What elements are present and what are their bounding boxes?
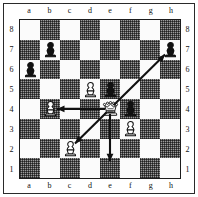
square-h6[interactable] xyxy=(160,60,180,80)
square-a6[interactable] xyxy=(20,60,40,80)
file-label-g: g xyxy=(141,6,161,16)
square-a1[interactable] xyxy=(20,158,40,178)
file-label-c: c xyxy=(60,181,80,191)
square-c4[interactable] xyxy=(60,99,80,119)
square-h7[interactable] xyxy=(160,40,180,60)
square-d2[interactable] xyxy=(80,139,100,159)
square-f5[interactable] xyxy=(120,79,140,99)
square-c6[interactable] xyxy=(60,60,80,80)
file-labels-top: a b c d e f g h xyxy=(19,6,181,16)
square-d5[interactable] xyxy=(80,79,100,99)
square-b6[interactable] xyxy=(40,60,60,80)
square-c5[interactable] xyxy=(60,79,80,99)
square-g7[interactable] xyxy=(140,40,160,60)
square-g2[interactable] xyxy=(140,139,160,159)
rank-label-1: 1 xyxy=(182,159,193,179)
square-c8[interactable] xyxy=(60,20,80,40)
black-pawn-b7[interactable] xyxy=(40,40,60,60)
file-label-c: c xyxy=(60,6,80,16)
square-b8[interactable] xyxy=(40,20,60,40)
rank-label-6: 6 xyxy=(182,59,193,79)
chess-board[interactable] xyxy=(19,19,181,179)
square-e7[interactable] xyxy=(100,40,120,60)
white-pawn-c2[interactable] xyxy=(60,139,80,159)
square-d8[interactable] xyxy=(80,20,100,40)
rank-labels-left: 8 7 6 5 4 3 2 1 xyxy=(6,19,17,179)
square-b1[interactable] xyxy=(40,158,60,178)
square-b4[interactable] xyxy=(40,99,60,119)
square-e4[interactable] xyxy=(100,99,120,119)
square-f3[interactable] xyxy=(120,119,140,139)
rank-label-2: 2 xyxy=(6,139,17,159)
file-label-f: f xyxy=(120,6,140,16)
file-label-f: f xyxy=(120,181,140,191)
square-f1[interactable] xyxy=(120,158,140,178)
square-d6[interactable] xyxy=(80,60,100,80)
square-h4[interactable] xyxy=(160,99,180,119)
square-d1[interactable] xyxy=(80,158,100,178)
square-e5[interactable] xyxy=(100,79,120,99)
white-pawn-b4[interactable] xyxy=(40,99,60,119)
white-queen-e4[interactable] xyxy=(100,99,120,119)
file-label-d: d xyxy=(80,6,100,16)
black-pawn-f4[interactable] xyxy=(120,99,140,119)
square-b7[interactable] xyxy=(40,40,60,60)
square-e2[interactable] xyxy=(100,139,120,159)
square-h2[interactable] xyxy=(160,139,180,159)
square-h5[interactable] xyxy=(160,79,180,99)
square-a3[interactable] xyxy=(20,119,40,139)
square-c1[interactable] xyxy=(60,158,80,178)
square-g4[interactable] xyxy=(140,99,160,119)
square-b2[interactable] xyxy=(40,139,60,159)
square-c3[interactable] xyxy=(60,119,80,139)
rank-label-5: 5 xyxy=(6,79,17,99)
square-f6[interactable] xyxy=(120,60,140,80)
square-a8[interactable] xyxy=(20,20,40,40)
square-a7[interactable] xyxy=(20,40,40,60)
file-label-a: a xyxy=(19,6,39,16)
rank-label-7: 7 xyxy=(182,39,193,59)
square-c7[interactable] xyxy=(60,40,80,60)
file-label-a: a xyxy=(19,181,39,191)
square-e6[interactable] xyxy=(100,60,120,80)
square-a2[interactable] xyxy=(20,139,40,159)
square-h1[interactable] xyxy=(160,158,180,178)
rank-label-6: 6 xyxy=(6,59,17,79)
square-e3[interactable] xyxy=(100,119,120,139)
white-pawn-d5[interactable] xyxy=(80,79,100,99)
file-labels-bottom: a b c d e f g h xyxy=(19,181,181,191)
white-pawn-f3[interactable] xyxy=(120,119,140,139)
black-pawn-e5[interactable] xyxy=(100,79,120,99)
chess-diagram: a b c d e f g h a b c d e f g h 8 7 6 5 … xyxy=(0,0,198,197)
square-f4[interactable] xyxy=(120,99,140,119)
square-f7[interactable] xyxy=(120,40,140,60)
square-g5[interactable] xyxy=(140,79,160,99)
square-h3[interactable] xyxy=(160,119,180,139)
black-pawn-h7[interactable] xyxy=(160,40,180,60)
file-label-b: b xyxy=(39,181,59,191)
file-label-h: h xyxy=(161,6,181,16)
square-e8[interactable] xyxy=(100,20,120,40)
square-f8[interactable] xyxy=(120,20,140,40)
square-g8[interactable] xyxy=(140,20,160,40)
square-b5[interactable] xyxy=(40,79,60,99)
square-c2[interactable] xyxy=(60,139,80,159)
black-pawn-a6[interactable] xyxy=(20,60,40,80)
square-d3[interactable] xyxy=(80,119,100,139)
rank-label-8: 8 xyxy=(182,19,193,39)
square-f2[interactable] xyxy=(120,139,140,159)
square-g1[interactable] xyxy=(140,158,160,178)
square-h8[interactable] xyxy=(160,20,180,40)
square-d7[interactable] xyxy=(80,40,100,60)
square-g3[interactable] xyxy=(140,119,160,139)
square-b3[interactable] xyxy=(40,119,60,139)
rank-label-1: 1 xyxy=(6,159,17,179)
file-label-h: h xyxy=(161,181,181,191)
square-e1[interactable] xyxy=(100,158,120,178)
square-a5[interactable] xyxy=(20,79,40,99)
file-label-g: g xyxy=(141,181,161,191)
file-label-b: b xyxy=(39,6,59,16)
square-d4[interactable] xyxy=(80,99,100,119)
square-a4[interactable] xyxy=(20,99,40,119)
square-g6[interactable] xyxy=(140,60,160,80)
